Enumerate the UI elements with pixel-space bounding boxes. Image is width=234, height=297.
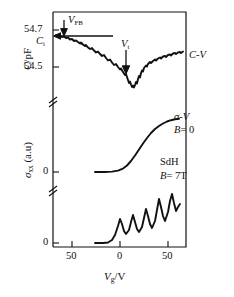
vt-arrow [122,50,129,74]
y-axis-title-conductivity-symbol: σ [21,173,33,178]
plot-frame [53,12,186,247]
vfb-arrow [61,20,68,36]
x-tick-label-0: 0 [117,251,122,262]
x-axis-title: Vg/V [104,271,125,284]
x-axis-title-unit: /V [114,270,125,282]
x-ticks [72,241,168,247]
cv-curve [56,35,183,88]
x-tick-label-50: 50 [162,251,173,262]
sdh-field-label: B= 7T [160,171,187,182]
y-axis-title-conductivity-subscript: xx [27,165,35,172]
sdh-field-value: = 7T [166,170,186,181]
vfb-label-subscript: FB [74,19,82,26]
cv-guide-chord [79,43,104,56]
vt-label-subscript: t [127,43,129,50]
ci-label-symbol: C [36,35,43,46]
vfb-label: VFB [68,15,83,26]
y-tick-label-zero-lower: 0 [43,237,48,248]
y-axis-title-conductivity: σxx (a.u) [22,142,35,178]
y-tick-label-54-7: 54.7 [24,24,42,35]
sdh-label: SdH [160,157,179,168]
x-axis-title-symbol: V [104,270,111,282]
y-axis-title-conductivity-unit: (a.u) [21,142,33,165]
y-tick-label-54-5: 54.5 [24,61,42,72]
sigma-v-field-label: B= 0 [174,125,194,136]
sdh-curve [95,194,180,243]
y-tick-label-zero-upper: 0 [43,166,48,177]
x-tick-label-minus-50: 50 [66,251,77,262]
ci-label: Ci [36,36,45,47]
cv-curve-label: C-V [189,50,206,61]
vt-label: Vt [121,39,129,50]
sigma-v-field-value: = 0 [180,124,194,135]
y-ticks-bottom [53,172,59,243]
ci-label-subscript: i [43,40,45,47]
sigma-v-curve-label: σ-V [174,112,189,123]
figure-root: C/pF 54.7 54.5 Ci VFB Vt C-V σ-V B= 0 Sd… [0,0,234,297]
